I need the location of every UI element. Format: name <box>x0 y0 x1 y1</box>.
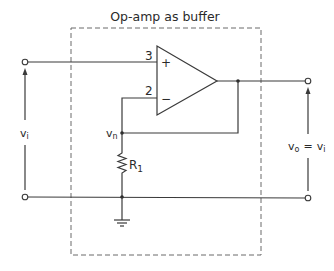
output-terminal-bottom <box>305 195 311 201</box>
circuit-diagram: Op-amp as buffer 3 + 2 − vn R1 v <box>0 0 334 271</box>
feedback-wire <box>122 81 238 133</box>
input-terminal-bottom <box>22 194 28 200</box>
minus-sign: − <box>161 92 171 106</box>
diagram-title: Op-amp as buffer <box>110 9 220 24</box>
output-voltage-arrow-icon <box>306 87 311 191</box>
pin-2-label: 2 <box>145 84 153 98</box>
resistor-r1-icon <box>118 133 126 197</box>
vo-equals-vi-label: vo=vi <box>288 140 325 154</box>
common-wire <box>28 197 305 198</box>
output-terminal-top <box>305 78 311 84</box>
input-terminal-top <box>22 59 28 65</box>
pin-3-label: 3 <box>145 49 153 63</box>
r1-label: R1 <box>129 158 143 174</box>
vn-label: vn <box>106 127 118 141</box>
plus-sign: + <box>161 56 171 70</box>
ground-icon <box>114 197 130 226</box>
vi-label: vi <box>20 127 29 141</box>
